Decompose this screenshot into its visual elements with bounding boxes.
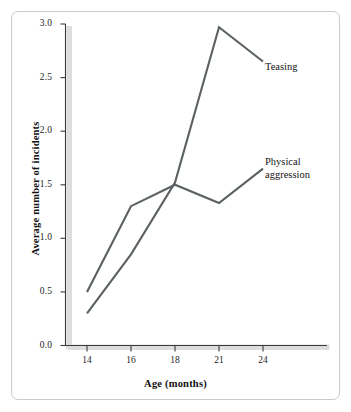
y-tick-label-0-0: 0.0	[22, 340, 52, 350]
y-tick-marks	[61, 24, 66, 346]
y-axis-title: Average number of incidents	[30, 89, 41, 289]
x-tick-label-14: 14	[72, 355, 102, 365]
figure-container: 3.0 2.5 2.0 1.5 1.0 0.5 0.0 14 16 18 21 …	[0, 0, 351, 412]
x-tick-label-21: 21	[204, 355, 234, 365]
series-line-teasing	[87, 27, 263, 313]
y-tick-label-2-5: 2.5	[22, 72, 52, 82]
y-axis-shadow	[67, 26, 73, 349]
line-chart-canvas	[0, 0, 351, 412]
series-label-teasing: Teasing	[265, 61, 298, 74]
series-line-physical-aggression	[87, 169, 263, 292]
x-tick-label-18: 18	[160, 355, 190, 365]
plot-area: 3.0 2.5 2.0 1.5 1.0 0.5 0.0 14 16 18 21 …	[0, 0, 351, 412]
series-label-physical-aggression: Physical aggression	[265, 156, 310, 181]
x-axis-title: Age (months)	[0, 378, 351, 389]
x-tick-label-24: 24	[248, 355, 278, 365]
x-tick-label-16: 16	[116, 355, 146, 365]
y-tick-label-3-0: 3.0	[22, 18, 52, 28]
